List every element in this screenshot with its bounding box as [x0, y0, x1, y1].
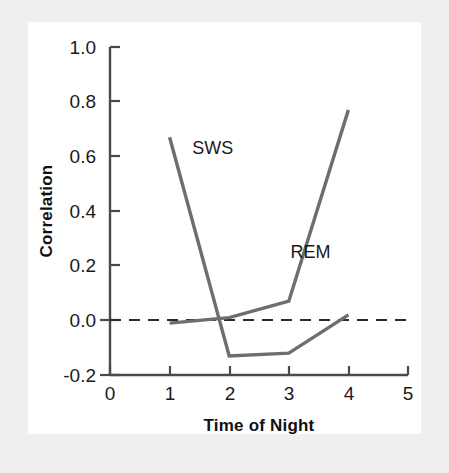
figure-container: 1.0 0.8 0.6 0.4 0.2 0.0 -0.2 0 1 2 3 4 5 [0, 0, 449, 473]
x-tick-label-0: 0 [105, 383, 116, 404]
x-tick-label-2: 2 [225, 383, 236, 404]
y-tick-label-0.8: 0.8 [70, 91, 96, 112]
x-axis-title: Time of Night [204, 416, 315, 435]
series-label-rem: REM [291, 242, 331, 262]
x-tick-label-1: 1 [165, 383, 176, 404]
x-tick-label-5: 5 [403, 383, 414, 404]
y-tick-label-0.2: 0.2 [70, 255, 96, 276]
y-axis-title: Correlation [37, 165, 56, 258]
series-label-sws: SWS [192, 138, 233, 158]
y-tick-label-0.4: 0.4 [70, 201, 97, 222]
y-tick-labels: 1.0 0.8 0.6 0.4 0.2 0.0 -0.2 [63, 37, 96, 386]
y-tick-label-0.0: 0.0 [70, 310, 96, 331]
axes-group [110, 47, 408, 375]
y-tick-label-0.6: 0.6 [70, 146, 96, 167]
y-tick-label-1.0: 1.0 [70, 37, 96, 58]
y-tick-label--0.2: -0.2 [63, 365, 96, 386]
x-tick-labels: 0 1 2 3 4 5 [105, 383, 414, 404]
x-tick-marks [110, 366, 408, 375]
x-tick-label-4: 4 [344, 383, 355, 404]
correlation-line-chart: 1.0 0.8 0.6 0.4 0.2 0.0 -0.2 0 1 2 3 4 5 [0, 0, 449, 473]
x-tick-label-3: 3 [284, 383, 295, 404]
